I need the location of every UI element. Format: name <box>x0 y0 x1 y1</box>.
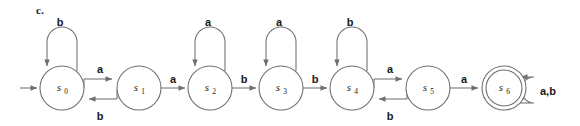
edge-label-s0-s1: a <box>97 63 104 75</box>
edge-label-s3-s3: a <box>276 16 283 28</box>
state-subscript-s0: 0 <box>64 87 68 96</box>
edge-label-s0-s0: b <box>57 16 64 28</box>
state-node-s5[interactable]: s 5 <box>406 66 450 110</box>
transition-s1-s0-b <box>89 90 117 99</box>
state-label-s5: s <box>423 81 427 93</box>
transition-s0-s0-b <box>47 27 77 71</box>
state-node-s6[interactable]: s 6 <box>482 66 526 110</box>
state-node-s1[interactable]: s 1 <box>117 66 161 110</box>
edge-label-s5-s4: b <box>387 110 394 122</box>
state-subscript-s5: 5 <box>430 87 434 96</box>
state-label-s2: s <box>205 81 209 93</box>
transition-s0-s1-a <box>84 79 112 88</box>
fsm-diagram-canvas: c. <box>0 0 580 126</box>
edge-label-s5-s6: a <box>461 73 468 85</box>
state-subscript-s2: 2 <box>212 87 216 96</box>
state-label-s6: s <box>499 81 503 93</box>
state-node-s3[interactable]: s 3 <box>259 66 303 110</box>
state-node-s4[interactable]: s 4 <box>330 66 374 110</box>
transition-s4-s4-b <box>337 27 367 71</box>
state-label-s0: s <box>57 81 61 93</box>
state-subscript-s1: 1 <box>141 87 145 96</box>
edge-label-s1-s2: a <box>170 73 177 85</box>
state-subscript-s4: 4 <box>354 87 358 96</box>
edge-label-s2-s2: a <box>205 16 212 28</box>
edge-label-s3-s4: b <box>312 73 319 85</box>
state-label-s4: s <box>347 81 351 93</box>
transition-s5-s4-b <box>379 90 407 99</box>
state-subscript-s3: 3 <box>283 87 287 96</box>
edge-label-s4-s4: b <box>347 16 354 28</box>
transition-s4-s5-a <box>374 79 402 88</box>
state-subscript-s6: 6 <box>506 87 510 96</box>
edge-label-s1-s0: b <box>97 110 104 122</box>
fsm-graph: s 0 s 1 s 2 s 3 s 4 s 5 <box>0 0 580 126</box>
transition-s3-s3-a <box>266 27 296 71</box>
edge-label-s4-s5: a <box>387 63 394 75</box>
state-label-s1: s <box>134 81 138 93</box>
edge-label-s2-s3: b <box>241 73 248 85</box>
transition-s2-s2-a <box>195 27 225 71</box>
state-node-s0[interactable]: s 0 <box>40 66 84 110</box>
edge-label-s6-s6: a,b <box>540 85 556 97</box>
state-label-s3: s <box>276 81 280 93</box>
state-node-s2[interactable]: s 2 <box>188 66 232 110</box>
